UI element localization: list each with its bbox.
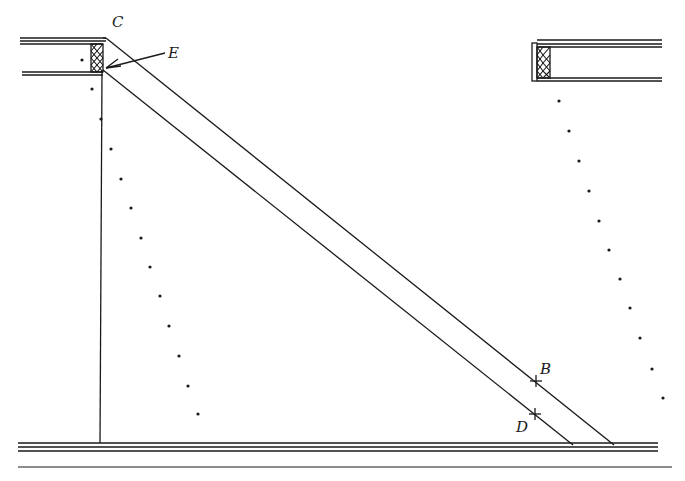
trajectory-dot bbox=[139, 236, 142, 239]
trajectory-dot bbox=[177, 354, 180, 357]
trajectory-dot bbox=[119, 177, 122, 180]
inclined-rod bbox=[103, 38, 614, 445]
left-trajectory-dots bbox=[80, 58, 199, 415]
vertical-post bbox=[100, 70, 102, 443]
trajectory-dot bbox=[557, 99, 560, 102]
trajectory-dot bbox=[587, 189, 590, 192]
label-C: C bbox=[112, 13, 124, 31]
trajectory-dot bbox=[196, 412, 199, 415]
left-spring bbox=[91, 44, 103, 72]
trajectory-dot bbox=[650, 367, 653, 370]
trajectory-dot bbox=[618, 277, 621, 280]
label-B: B bbox=[539, 360, 551, 378]
trajectory-dot bbox=[577, 159, 580, 162]
right-trajectory-dots bbox=[557, 99, 664, 399]
trajectory-dot bbox=[148, 265, 151, 268]
arrow-E bbox=[106, 53, 165, 68]
physics-diagram: C E B D bbox=[0, 0, 685, 481]
trajectory-dot bbox=[567, 129, 570, 132]
trajectory-dot bbox=[80, 58, 83, 61]
right-upper-rail bbox=[532, 40, 662, 81]
trajectory-dot bbox=[90, 87, 93, 90]
trajectory-dot bbox=[167, 324, 170, 327]
trajectory-dot bbox=[158, 294, 161, 297]
trajectory-dot bbox=[638, 336, 641, 339]
ground-rails bbox=[18, 443, 658, 451]
trajectory-dot bbox=[186, 384, 189, 387]
trajectory-dot bbox=[597, 219, 600, 222]
trajectory-dot bbox=[607, 248, 610, 251]
right-spring bbox=[537, 47, 550, 78]
trajectory-dot bbox=[129, 206, 132, 209]
label-E: E bbox=[167, 44, 179, 62]
label-D: D bbox=[515, 418, 528, 436]
trajectory-dot bbox=[628, 306, 631, 309]
trajectory-dot bbox=[99, 117, 102, 120]
trajectory-dot bbox=[661, 396, 664, 399]
trajectory-dot bbox=[109, 147, 112, 150]
